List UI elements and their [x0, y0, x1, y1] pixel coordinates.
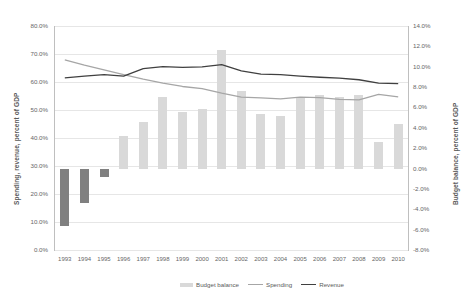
y-axis-left-tick-label: 0.0%: [14, 246, 48, 253]
legend-item-spending: Spending: [248, 281, 292, 288]
legend-item-revenue: Revenue: [301, 281, 344, 288]
y-axis-right-tick-label: -6.0%: [413, 226, 447, 233]
legend-label-revenue: Revenue: [319, 281, 344, 288]
legend-swatch-spending: [248, 284, 263, 285]
y-axis-right-tick-label: 2.0%: [413, 144, 447, 151]
y-axis-left-tick-label: 10.0%: [14, 218, 48, 225]
y-axis-right-tick-label: -4.0%: [413, 205, 447, 212]
line-spending: [65, 60, 398, 100]
legend-item-budget-balance: Budget balance: [180, 281, 239, 288]
y-axis-left-tick-label: 40.0%: [14, 134, 48, 141]
gridline: [55, 250, 408, 251]
y-axis-right-tick-label: -2.0%: [413, 185, 447, 192]
legend-swatch-budget-balance: [180, 283, 193, 287]
y-axis-right-tick-label: 10.0%: [413, 63, 447, 70]
y-axis-right-title: Budget balance, percent of GDP: [452, 103, 459, 205]
chart-canvas: Spending, revenue, percent of GDP Budget…: [0, 0, 463, 305]
y-axis-left-tick-label: 50.0%: [14, 106, 48, 113]
y-axis-right-tick-label: 14.0%: [413, 22, 447, 29]
legend-label-spending: Spending: [266, 281, 292, 288]
line-revenue: [65, 65, 398, 84]
y-axis-right-line: [408, 26, 409, 251]
y-axis-left-tick-label: 20.0%: [14, 190, 48, 197]
y-axis-right-tick-label: 6.0%: [413, 103, 447, 110]
y-axis-left-tick-label: 60.0%: [14, 78, 48, 85]
legend-swatch-revenue: [301, 284, 316, 285]
y-axis-left-tick-label: 70.0%: [14, 50, 48, 57]
plot-area: [55, 26, 408, 250]
y-axis-right-tick-label: 12.0%: [413, 42, 447, 49]
y-axis-left-tick-label: 80.0%: [14, 22, 48, 29]
legend-label-budget-balance: Budget balance: [196, 281, 239, 288]
y-axis-left-tick-label: 30.0%: [14, 162, 48, 169]
y-axis-right-tick-label: 4.0%: [413, 124, 447, 131]
x-axis-tick-label: 2010: [383, 256, 413, 262]
y-axis-right-tick-label: 0.0%: [413, 165, 447, 172]
y-axis-right-tick-label: 8.0%: [413, 83, 447, 90]
chart-legend: Budget balance Spending Revenue: [180, 281, 344, 288]
line-series-group: [55, 26, 408, 250]
y-axis-right-tick-label: -8.0%: [413, 246, 447, 253]
